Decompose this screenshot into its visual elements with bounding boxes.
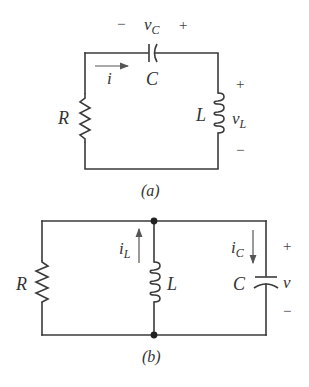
resistor-label-b: R xyxy=(15,274,27,294)
wire-bottom xyxy=(85,133,218,169)
vc-minus: − xyxy=(117,16,125,32)
series-rlc-circuit: i C − vC + R L + vL − (a) xyxy=(57,15,247,200)
capacitor-label-a: C xyxy=(146,69,159,89)
circuit-figure: i C − vC + R L + vL − (a) xyxy=(0,0,309,387)
inductor-label-a: L xyxy=(195,105,206,125)
inductor-b xyxy=(150,262,160,302)
vc-label: vC xyxy=(144,15,161,37)
vc-plus: + xyxy=(179,17,187,33)
v-minus: − xyxy=(283,303,291,319)
v-label: v xyxy=(283,273,291,292)
parallel-rlc-circuit: R L C iL iC + v − (b) xyxy=(15,218,291,366)
bottom-node xyxy=(151,332,158,339)
caption-a: (a) xyxy=(141,182,160,200)
capacitor-label-b: C xyxy=(233,274,246,294)
inductor-a xyxy=(214,93,224,133)
resistor-label-a: R xyxy=(57,108,69,128)
il-label: iL xyxy=(119,239,131,261)
inductor-label-b: L xyxy=(166,274,177,294)
wire-top-right xyxy=(155,53,218,93)
vl-minus: − xyxy=(236,142,244,158)
resistor-b xyxy=(36,260,48,303)
caption-b: (b) xyxy=(142,348,161,366)
v-plus: + xyxy=(283,238,291,254)
vl-label: vL xyxy=(232,109,247,131)
vl-plus: + xyxy=(236,76,244,92)
top-node xyxy=(151,218,158,225)
resistor-a xyxy=(80,93,90,143)
ic-label: iC xyxy=(231,238,245,260)
current-label: i xyxy=(107,69,112,88)
